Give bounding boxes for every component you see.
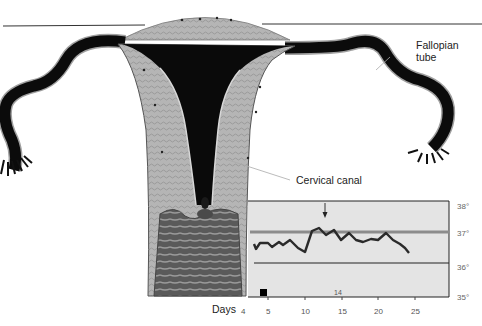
top-line-left	[3, 25, 145, 26]
menstruation-marker	[260, 289, 267, 296]
uterus-illustration	[0, 0, 482, 326]
day-14-label: 14	[334, 289, 342, 296]
y-tick-38: 38°	[457, 202, 469, 211]
fallopian-label-line1: Fallopian	[416, 39, 459, 51]
bbt-chart	[248, 201, 449, 300]
uterus-diagram: Fallopian tube Cervical canal Days 4 5 1…	[0, 0, 482, 326]
vaginal-canal	[154, 209, 242, 296]
fallopian-label-line2: tube	[416, 51, 459, 63]
x-tick-20: 20	[374, 307, 383, 316]
x-tick-15: 15	[338, 307, 347, 316]
fundus	[120, 18, 290, 41]
fallopian-tube-left	[1, 41, 125, 176]
x-tick-10: 10	[301, 307, 310, 316]
x-tick-25: 25	[411, 307, 420, 316]
y-tick-37: 37°	[457, 229, 469, 238]
chart-background	[248, 201, 449, 297]
x-tick-5: 5	[266, 307, 270, 316]
x-tick-4: 4	[241, 307, 245, 316]
cervical-canal-label: Cervical canal	[296, 174, 362, 186]
fallopian-tube-label: Fallopian tube	[416, 39, 459, 63]
y-tick-36: 36°	[457, 263, 469, 272]
x-axis-title: Days	[212, 303, 236, 315]
y-tick-35: 35°	[457, 293, 469, 302]
